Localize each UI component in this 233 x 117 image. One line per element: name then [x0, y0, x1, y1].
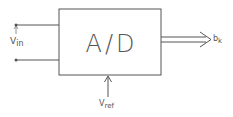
ad-converter-diagram: A/D Vin bk Vref: [0, 0, 233, 117]
block-label: A/D: [86, 30, 135, 58]
vref-label: Vref: [99, 99, 115, 110]
bk-label: bk: [213, 34, 223, 45]
input-terminal-bottom: [15, 59, 18, 62]
output-arrowhead-icon: [200, 32, 211, 47]
vin-label: Vin: [10, 36, 23, 48]
